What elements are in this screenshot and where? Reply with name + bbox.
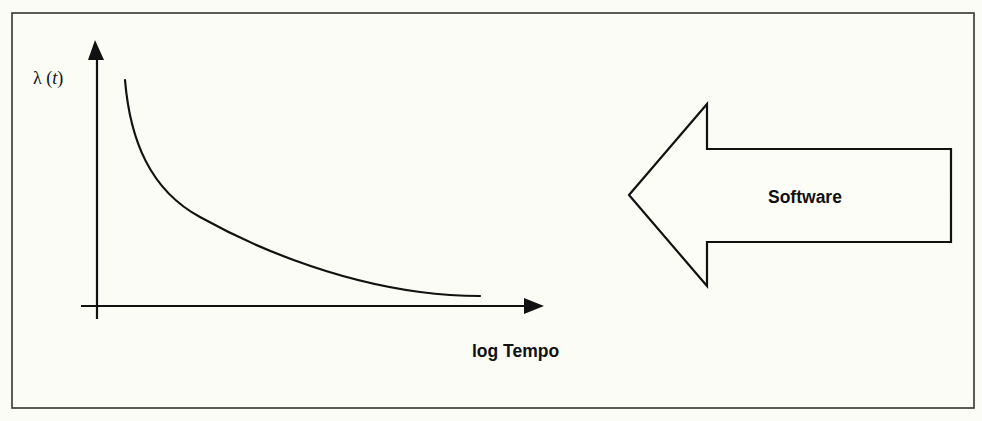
x-axis-arrowhead-icon (524, 298, 544, 314)
y-axis-label-close: ) (57, 68, 63, 88)
lambda-symbol: λ (33, 68, 42, 88)
failure-rate-curve (125, 80, 480, 296)
y-axis-label: λ (t) (33, 68, 63, 89)
y-axis-arrowhead-icon (88, 40, 104, 60)
x-axis-label: log Tempo (472, 341, 559, 362)
y-axis-label-open: ( (42, 68, 53, 88)
software-arrow-label: Software (768, 187, 842, 208)
